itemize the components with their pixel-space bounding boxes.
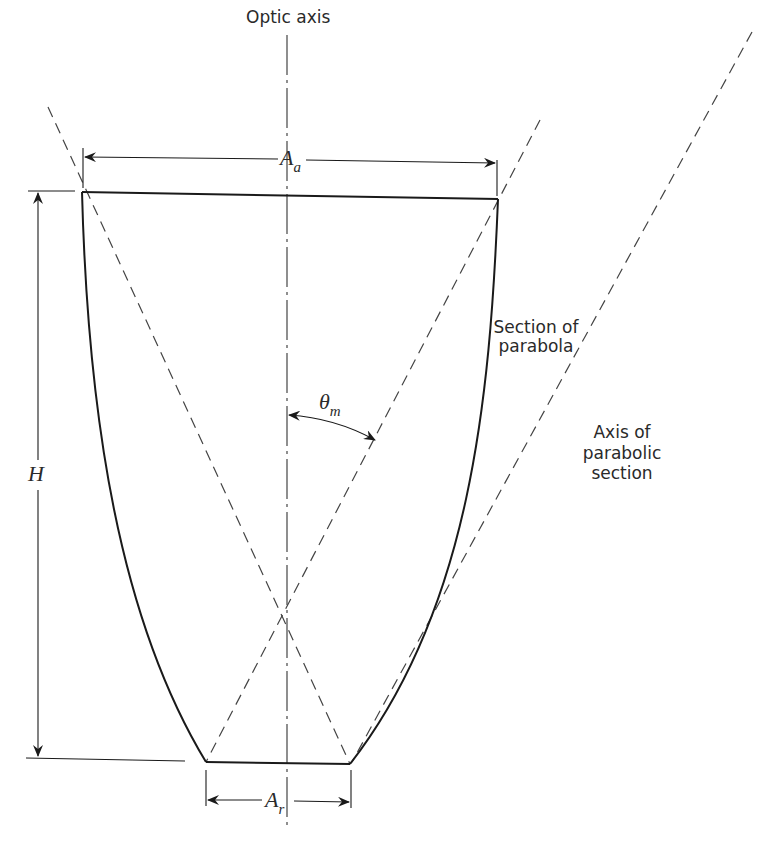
- section-of-parabola-line2: parabola: [486, 337, 586, 356]
- height-dimension: [26, 191, 185, 761]
- parabolic-axis-line: [352, 32, 752, 762]
- axis-label-line1: Axis of: [552, 422, 692, 443]
- axis-label-line3: section: [552, 463, 692, 484]
- exit-aperture-subscript: r: [278, 801, 284, 817]
- acceptance-angle-label: θm: [319, 390, 341, 414]
- axis-label-line2: parabolic: [552, 443, 692, 464]
- diagram-lines: [0, 0, 783, 841]
- cpc-diagram: Optic axis Aa H θm Ar Section of parabol…: [0, 0, 783, 841]
- exit-aperture-label: Ar: [265, 788, 284, 812]
- entrance-aperture-symbol: A: [280, 145, 293, 170]
- theta-subscript: m: [330, 403, 341, 419]
- height-label: H: [28, 462, 44, 486]
- right-parabola: [350, 199, 498, 764]
- entrance-aperture-line: [82, 192, 498, 199]
- axis-of-parabolic-section-label: Axis of parabolic section: [552, 422, 692, 484]
- section-of-parabola-line1: Section of: [486, 318, 586, 337]
- concentrator-outline: [82, 192, 498, 764]
- exit-aperture-line: [206, 762, 350, 764]
- left-parabola: [82, 192, 206, 762]
- entrance-aperture-label: Aa: [280, 146, 301, 170]
- section-of-parabola-label: Section of parabola: [486, 318, 586, 355]
- optic-axis-label: Optic axis: [246, 8, 330, 27]
- theta-symbol: θ: [319, 389, 330, 414]
- entrance-aperture-subscript: a: [293, 159, 301, 175]
- exit-aperture-symbol: A: [265, 787, 278, 812]
- edge-ray-lines: [48, 107, 540, 764]
